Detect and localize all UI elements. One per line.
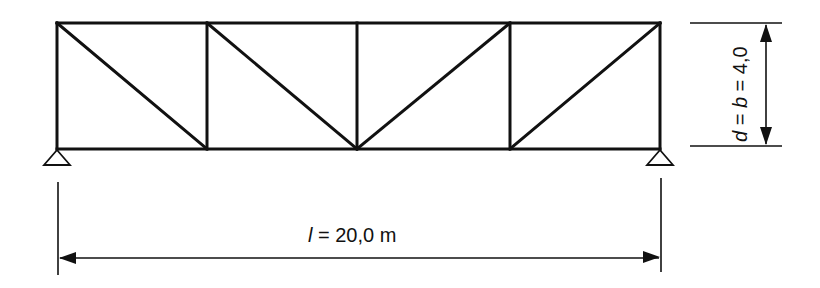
right-support-icon — [647, 150, 673, 165]
diagonal-member-2 — [207, 23, 357, 149]
span-value: = 20,0 m — [312, 224, 396, 246]
height-label: d = b = 4,0 — [729, 46, 751, 142]
height-arrow-down-icon — [760, 127, 772, 145]
span-arrow-left-icon — [59, 252, 76, 264]
truss-diagram: l = 20,0 m d = b = 4,0 — [0, 0, 820, 288]
diagonal-member-4 — [510, 23, 660, 149]
height-arrow-up-icon — [760, 24, 772, 42]
span-arrow-right-icon — [643, 251, 660, 263]
span-label: l = 20,0 m — [308, 224, 396, 246]
height-symbol-b: b — [729, 97, 751, 108]
height-equals: = — [729, 108, 751, 131]
diagonal-member-1 — [57, 23, 207, 149]
diagonal-member-3 — [357, 23, 510, 149]
left-support-icon — [44, 150, 70, 165]
height-value: = 4,0 — [729, 46, 751, 97]
